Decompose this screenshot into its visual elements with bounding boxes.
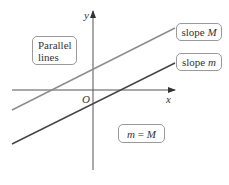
origin-label: O xyxy=(82,93,90,105)
slope-M-box: slope M xyxy=(176,23,222,41)
slope-m-var: m xyxy=(208,56,216,68)
parallel-label-line2: lines xyxy=(38,51,72,63)
x-axis-label: x xyxy=(166,93,171,105)
slope-M-var: M xyxy=(207,26,216,38)
slope-m-box: slope m xyxy=(176,53,222,71)
equation-left: m xyxy=(127,128,135,140)
slope-M-prefix: slope xyxy=(181,26,207,38)
parallel-label-line1: Parallel xyxy=(38,39,72,51)
equation-operator: = xyxy=(135,128,147,140)
y-axis-label: y xyxy=(84,9,89,21)
equation-right: M xyxy=(147,128,156,140)
equation-box: m = M xyxy=(118,124,165,143)
slope-m-prefix: slope xyxy=(182,56,208,68)
parallel-lines-box: Parallel lines xyxy=(32,36,77,65)
